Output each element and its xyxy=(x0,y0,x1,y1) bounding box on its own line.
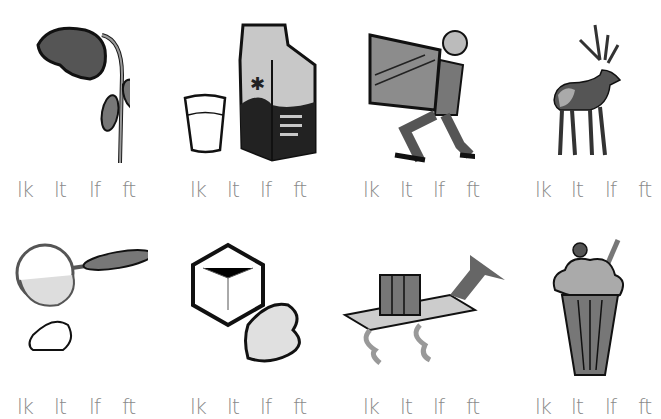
choice-4-lf[interactable]: lf xyxy=(605,180,616,201)
sifter-picture xyxy=(8,240,148,370)
choice-1-ft[interactable]: ft xyxy=(122,180,135,201)
choice-1-lt[interactable]: lt xyxy=(54,180,66,201)
choice-6-lt[interactable]: lt xyxy=(227,397,239,418)
choice-8-lt[interactable]: lt xyxy=(571,397,583,418)
choice-6-lf[interactable]: lf xyxy=(260,397,271,418)
choice-8-lk[interactable]: lk xyxy=(535,397,551,418)
wilted-flower-picture xyxy=(30,15,130,165)
choice-2-lf[interactable]: lf xyxy=(260,180,271,201)
milk-carton-picture: ✱ xyxy=(180,20,320,165)
melting-ice-cube-picture xyxy=(188,240,318,370)
choice-2-ft[interactable]: ft xyxy=(293,180,306,201)
choice-5-lt[interactable]: lt xyxy=(54,397,66,418)
choice-7-ft[interactable]: ft xyxy=(466,397,479,418)
choice-5-ft[interactable]: ft xyxy=(122,397,135,418)
choice-8-ft[interactable]: ft xyxy=(638,397,651,418)
choice-4-lt[interactable]: lt xyxy=(571,180,583,201)
choice-5-lk[interactable]: lk xyxy=(17,397,33,418)
choice-5-lf[interactable]: lf xyxy=(89,397,100,418)
choice-1-lf[interactable]: lf xyxy=(89,180,100,201)
man-lifting-box-picture xyxy=(365,15,475,165)
choice-2-lt[interactable]: lt xyxy=(227,180,239,201)
choice-6-lk[interactable]: lk xyxy=(190,397,206,418)
choice-3-lf[interactable]: lf xyxy=(433,180,444,201)
choice-3-ft[interactable]: ft xyxy=(466,180,479,201)
choice-2-lk[interactable]: lk xyxy=(190,180,206,201)
choice-1-lk[interactable]: lk xyxy=(17,180,33,201)
choice-3-lk[interactable]: lk xyxy=(363,180,379,201)
milkshake-picture xyxy=(550,235,630,380)
choice-7-lf[interactable]: lf xyxy=(433,397,444,418)
choice-7-lt[interactable]: lt xyxy=(400,397,412,418)
choice-3-lt[interactable]: lt xyxy=(400,180,412,201)
elk-picture xyxy=(550,15,630,165)
shelf-with-books-picture xyxy=(340,245,510,365)
choice-8-lf[interactable]: lf xyxy=(605,397,616,418)
choice-4-ft[interactable]: ft xyxy=(638,180,651,201)
choice-7-lk[interactable]: lk xyxy=(363,397,379,418)
choice-6-ft[interactable]: ft xyxy=(293,397,306,418)
choice-4-lk[interactable]: lk xyxy=(535,180,551,201)
svg-text:✱: ✱ xyxy=(250,73,265,94)
